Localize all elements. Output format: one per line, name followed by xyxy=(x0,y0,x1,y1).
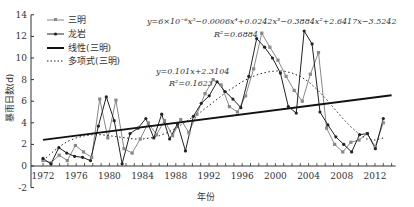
linear-equation: y=0.101x+2.3104 xyxy=(155,67,229,76)
legend-marker-longyan xyxy=(54,32,57,35)
chart: -202468101214197219761980198419881992199… xyxy=(0,0,414,207)
sanming-point xyxy=(114,99,117,102)
sanming-point xyxy=(333,143,336,146)
legend: 三明 龙岩 线性(三明) 多项式(三明) xyxy=(47,15,120,66)
y-tick-label: 12 xyxy=(16,31,27,41)
legend-marker-sanming xyxy=(54,18,57,21)
longyan-point xyxy=(152,136,155,139)
sanming-point xyxy=(276,59,279,62)
longyan-point xyxy=(49,162,52,165)
y-tick-label: 2 xyxy=(21,139,27,149)
longyan-point xyxy=(223,90,226,93)
sanming-point xyxy=(228,105,231,108)
sanming-point xyxy=(357,138,360,141)
longyan-point xyxy=(57,146,60,149)
legend-label-linear: 线性(三明) xyxy=(68,42,111,53)
longyan-point xyxy=(326,123,329,126)
sanming-point xyxy=(317,51,320,54)
sanming-point xyxy=(349,141,352,144)
longyan-point xyxy=(184,149,187,152)
y-tick-label: 14 xyxy=(16,10,28,20)
longyan-point xyxy=(374,147,377,150)
y-tick-label: -2 xyxy=(18,183,27,193)
legend-label-sanming: 三明 xyxy=(68,15,86,25)
sanming-point xyxy=(131,151,134,154)
longyan-point xyxy=(271,56,274,59)
longyan-point xyxy=(168,137,171,140)
sanming-point xyxy=(90,156,93,159)
longyan-point xyxy=(81,156,84,159)
sanming-point xyxy=(260,32,263,35)
sanming-point xyxy=(171,134,174,137)
sanming-point xyxy=(236,110,239,113)
longyan-point xyxy=(303,29,306,32)
longyan-point xyxy=(310,42,313,45)
x-tick-label: 1972 xyxy=(32,171,55,181)
longyan-point xyxy=(121,162,124,165)
sanming-point xyxy=(244,94,247,97)
y-axis-title: 暴雨日数(d) xyxy=(4,74,15,123)
longyan-point xyxy=(65,151,68,154)
x-tick-label: 2008 xyxy=(330,171,353,181)
sanming-point xyxy=(309,73,312,76)
longyan-point xyxy=(287,105,290,108)
x-tick-label: 2004 xyxy=(297,171,320,181)
x-tick-label: 1988 xyxy=(164,171,187,181)
longyan-point xyxy=(279,72,282,75)
longyan-point xyxy=(105,95,108,98)
sanming-point xyxy=(220,83,223,86)
longyan-point xyxy=(358,133,361,136)
longyan-point xyxy=(295,111,298,114)
sanming-point xyxy=(98,97,101,100)
poly-equation: y=6×10⁻⁶x⁵−0.0006x⁴+0.0242x³−0.3884x²+2.… xyxy=(146,17,397,26)
longyan-point xyxy=(176,122,179,125)
sanming-point xyxy=(293,89,296,92)
longyan-point xyxy=(97,124,100,127)
legend-label-poly: 多项式(三明) xyxy=(68,55,120,66)
x-tick-label: 1976 xyxy=(65,171,88,181)
longyan-point xyxy=(366,132,369,135)
longyan-point xyxy=(318,110,321,113)
linear-trend-line xyxy=(43,95,392,140)
sanming-point xyxy=(139,137,142,140)
longyan-point xyxy=(136,127,139,130)
sanming-point xyxy=(301,100,304,103)
y-tick-label: 10 xyxy=(16,53,28,63)
longyan-point xyxy=(216,80,219,83)
sanming-point xyxy=(203,92,206,95)
longyan-point xyxy=(350,150,353,153)
sanming-point xyxy=(382,121,385,124)
sanming-point xyxy=(66,159,69,162)
longyan-point xyxy=(342,143,345,146)
longyan-point xyxy=(41,157,44,160)
longyan-point xyxy=(382,117,385,120)
sanming-point xyxy=(268,46,271,49)
x-tick-label: 1996 xyxy=(231,171,254,181)
longyan-point xyxy=(200,102,203,105)
y-tick-label: 0 xyxy=(21,161,27,171)
sanming-point xyxy=(195,113,198,116)
longyan-point xyxy=(208,94,211,97)
x-tick-label: 1980 xyxy=(98,171,121,181)
sanming-point xyxy=(106,136,109,139)
sanming-point xyxy=(179,118,182,121)
sanming-point xyxy=(147,121,150,124)
longyan-point xyxy=(89,159,92,162)
sanming-point xyxy=(58,154,61,157)
longyan-point xyxy=(113,119,116,122)
x-axis-title: 年份 xyxy=(197,191,215,202)
longyan-point xyxy=(192,115,195,118)
longyan-point xyxy=(334,135,337,138)
longyan-point xyxy=(73,155,76,158)
legend-label-longyan: 龙岩 xyxy=(68,28,86,39)
sanming-point xyxy=(284,75,287,78)
sanming-point xyxy=(163,119,166,122)
sanming-point xyxy=(341,150,344,153)
x-tick-label: 1992 xyxy=(198,171,221,181)
sanming-point xyxy=(187,131,190,134)
longyan-point xyxy=(247,75,250,78)
x-tick-label: 1984 xyxy=(131,171,154,181)
sanming-point xyxy=(122,147,125,150)
x-tick-label: 2012 xyxy=(364,171,387,181)
longyan-point xyxy=(160,113,163,116)
